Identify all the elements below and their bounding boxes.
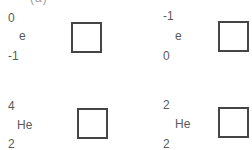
lower-number: -1: [8, 50, 19, 62]
particle-symbol: He: [17, 119, 32, 131]
answer-box[interactable]: [218, 21, 249, 52]
upper-number: 2: [163, 99, 170, 111]
lower-number: 2: [8, 138, 15, 150]
upper-number: 4: [8, 100, 15, 112]
upper-number: 0: [8, 12, 15, 24]
answer-box[interactable]: [218, 107, 249, 138]
upper-number: -1: [163, 10, 174, 22]
lower-number: 2: [163, 138, 170, 150]
particle-symbol: e: [175, 30, 182, 42]
cutoff-header-text: (a): [30, 0, 48, 5]
particle-symbol: He: [175, 118, 190, 130]
answer-box[interactable]: [71, 22, 102, 53]
answer-box[interactable]: [77, 108, 108, 139]
lower-number: 0: [163, 50, 170, 62]
particle-symbol: e: [19, 30, 26, 42]
